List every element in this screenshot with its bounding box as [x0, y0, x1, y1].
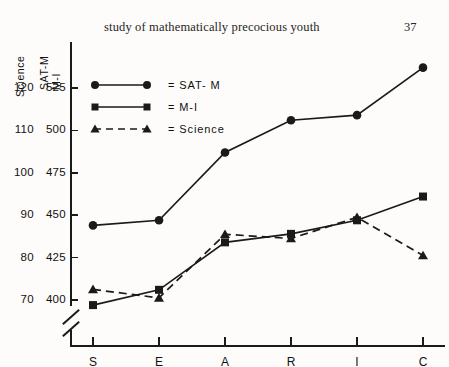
data-point-square: [89, 301, 97, 309]
series-line-m-i: [93, 197, 423, 306]
data-point-square: [155, 286, 163, 294]
plot-area: [0, 0, 449, 367]
figure-page: study of mathematically precocious youth…: [0, 0, 449, 367]
data-point-circle: [221, 148, 230, 157]
data-point-circle: [353, 111, 362, 120]
legend-sample-mi: [88, 100, 160, 114]
data-point-circle: [89, 221, 98, 230]
data-point-circle: [287, 116, 296, 125]
legend-label-mi: = M-I: [168, 100, 198, 114]
data-point-circle: [419, 63, 428, 72]
data-point-square: [419, 193, 427, 201]
legend-label-satm: = SAT- M: [168, 78, 221, 92]
data-point-circle: [155, 216, 164, 225]
legend-sample-satm: [88, 78, 160, 92]
legend-label-science: = Science: [168, 122, 225, 136]
legend-sample-science: [88, 122, 160, 136]
data-point-square: [221, 238, 229, 246]
data-point-triangle: [88, 285, 98, 294]
data-point-triangle: [418, 251, 428, 260]
series-line-science: [93, 217, 423, 298]
